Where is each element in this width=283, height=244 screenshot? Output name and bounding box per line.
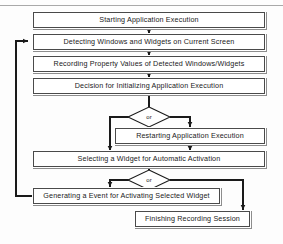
or-diamond-1-label: or [139, 114, 159, 120]
node-label: Starting Application Execution [99, 16, 198, 23]
node-label: Recording Property Values of Detected Wi… [54, 60, 245, 67]
node-restarting-application-execution[interactable]: Restarting Application Execution [115, 128, 265, 144]
node-generating-an-event[interactable]: Generating a Event for Activating Select… [33, 188, 220, 204]
node-decision-for-initializing[interactable]: Decision for Initializing Application Ex… [33, 78, 265, 94]
node-recording-property-values[interactable]: Recording Property Values of Detected Wi… [33, 56, 265, 72]
node-detecting-windows-and-widgets[interactable]: Detecting Windows and Widgets on Current… [33, 34, 265, 50]
edge-generate-detect-feedback [16, 41, 33, 196]
node-label: Selecting a Widget for Automatic Activat… [78, 155, 221, 162]
node-finishing-recording-session[interactable]: Finishing Recording Session [135, 211, 250, 227]
node-selecting-a-widget[interactable]: Selecting a Widget for Automatic Activat… [33, 151, 265, 167]
node-label: Finishing Recording Session [145, 215, 240, 222]
node-label: Decision for Initializing Application Ex… [75, 82, 224, 89]
flowchart-canvas: Starting Application Execution Detecting… [0, 0, 283, 244]
edge-or1-right [170, 117, 190, 127]
node-label: Restarting Application Execution [136, 132, 244, 139]
node-label: Detecting Windows and Widgets on Current… [64, 38, 235, 45]
node-label: Generating a Event for Activating Select… [43, 192, 209, 199]
node-starting-application-execution[interactable]: Starting Application Execution [33, 12, 265, 28]
or-diamond-2-label: or [139, 177, 159, 183]
